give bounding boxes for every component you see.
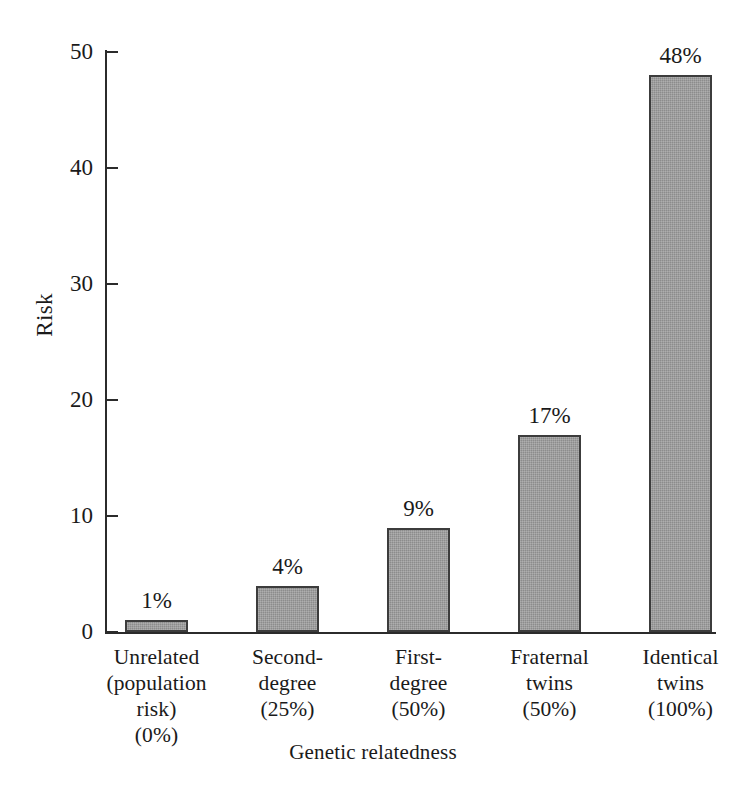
x-axis-line <box>105 632 716 634</box>
y-tick-mark <box>107 283 118 285</box>
y-tick-mark <box>107 51 118 53</box>
x-category-label: Unrelated (population risk) (0%) <box>85 644 228 748</box>
x-category-label: Second- degree (25%) <box>216 644 359 722</box>
bar <box>387 528 450 632</box>
bar <box>649 75 712 632</box>
y-tick-mark <box>107 631 118 633</box>
x-category-label: Identical twins (100%) <box>609 644 746 722</box>
y-tick-label: 40 <box>37 156 93 179</box>
bar <box>125 620 188 632</box>
x-category-label: Fraternal twins (50%) <box>478 644 621 722</box>
x-axis-title: Genetic relatedness <box>0 740 746 765</box>
y-tick-mark <box>107 167 118 169</box>
y-tick-label: 20 <box>37 388 93 411</box>
y-tick-mark <box>107 515 118 517</box>
bar <box>518 435 581 632</box>
x-category-label: First- degree (50%) <box>347 644 490 722</box>
y-tick-label: 10 <box>37 504 93 527</box>
y-tick-label: 50 <box>37 40 93 63</box>
bar-chart-figure: Risk 01020304050 1%4%9%17%48% Unrelated … <box>0 0 746 798</box>
bar-value-label: 17% <box>496 404 603 427</box>
bar-value-label: 9% <box>365 497 472 520</box>
bar <box>256 586 319 632</box>
y-tick-label: 30 <box>37 272 93 295</box>
bar-value-label: 4% <box>234 555 341 578</box>
y-axis-line <box>105 50 107 634</box>
y-tick-mark <box>107 399 118 401</box>
y-tick-label: 0 <box>37 620 93 643</box>
bar-value-label: 48% <box>627 44 734 67</box>
bar-value-label: 1% <box>103 589 210 612</box>
